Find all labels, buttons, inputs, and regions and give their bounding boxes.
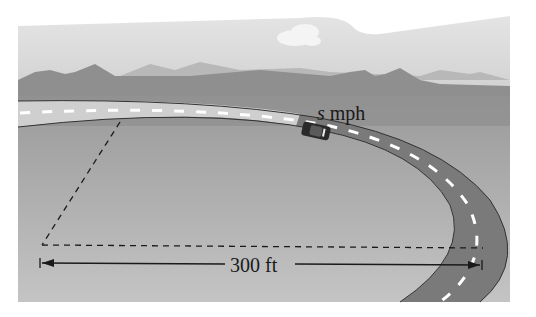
speed-variable: s xyxy=(317,102,325,124)
distance-label: 300 ft xyxy=(230,254,277,277)
speed-unit: mph xyxy=(330,102,366,124)
speed-label: s mph xyxy=(317,102,365,125)
